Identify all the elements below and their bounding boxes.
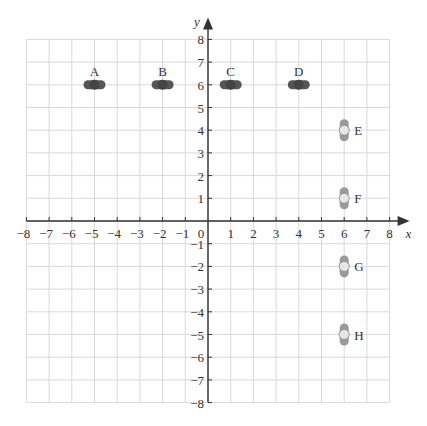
pill-center-icon [90, 80, 100, 90]
x-tick-label: −6 [62, 226, 76, 241]
pill-center-icon [339, 330, 349, 340]
x-tick-label: 2 [250, 226, 257, 241]
y-tick-label: 1 [198, 191, 205, 206]
pill-center-icon [339, 193, 349, 203]
point-label: B [158, 64, 167, 79]
x-tick-label: 4 [296, 226, 303, 241]
tick-labels: −8−7−6−5−4−3−2−101234567887654321−1−2−3−… [16, 14, 411, 410]
x-axis-arrow-icon [398, 216, 410, 226]
pill-center-icon [226, 80, 236, 90]
pill-center-icon [339, 261, 349, 271]
pill-center-icon [158, 80, 168, 90]
y-tick-label: −6 [190, 350, 204, 365]
x-tick-label: 3 [273, 226, 280, 241]
pill-center-icon [294, 80, 304, 90]
y-tick-label: 4 [198, 123, 205, 138]
y-tick-label: −8 [190, 396, 204, 411]
pill-center-icon [339, 125, 349, 135]
x-tick-label: −1 [175, 226, 189, 241]
axes [26, 17, 409, 402]
y-tick-label: 3 [198, 146, 205, 161]
coordinate-grid-figure: −8−7−6−5−4−3−2−101234567887654321−1−2−3−… [0, 0, 427, 426]
point-b: B [152, 64, 174, 90]
y-tick-label: −7 [190, 373, 204, 388]
x-tick-label: 6 [341, 226, 348, 241]
y-tick-label: −5 [190, 328, 204, 343]
point-d: D [288, 64, 310, 90]
point-label: C [226, 64, 235, 79]
y-axis-label: y [192, 14, 200, 29]
y-tick-label: 6 [198, 78, 205, 93]
point-label: D [294, 64, 303, 79]
y-tick-label: −2 [190, 259, 204, 274]
y-tick-label: −3 [190, 282, 204, 297]
x-axis-label: x [405, 226, 412, 241]
y-tick-label: 5 [198, 101, 205, 116]
x-tick-label: −8 [16, 226, 30, 241]
x-tick-label: 8 [386, 226, 393, 241]
point-label: A [90, 64, 100, 79]
point-label: H [354, 328, 363, 343]
y-tick-label: −1 [190, 237, 204, 252]
x-tick-label: −5 [85, 226, 99, 241]
x-tick-label: −7 [39, 226, 53, 241]
point-c: C [220, 64, 242, 90]
x-tick-label: −3 [130, 226, 144, 241]
point-label: G [354, 259, 363, 274]
y-tick-label: −4 [190, 305, 204, 320]
y-tick-label: 2 [198, 169, 205, 184]
y-tick-label: 8 [198, 32, 205, 47]
x-tick-label: 1 [227, 226, 234, 241]
point-label: E [354, 123, 362, 138]
coordinate-plane: −8−7−6−5−4−3−2−101234567887654321−1−2−3−… [0, 0, 427, 426]
point-label: F [354, 191, 361, 206]
x-tick-label: 7 [364, 226, 371, 241]
point-a: A [84, 64, 106, 90]
x-tick-label: −2 [153, 226, 167, 241]
x-tick-label: −4 [107, 226, 121, 241]
y-tick-label: 7 [198, 55, 205, 70]
y-axis-arrow-icon [203, 17, 213, 29]
x-tick-label: 5 [318, 226, 325, 241]
